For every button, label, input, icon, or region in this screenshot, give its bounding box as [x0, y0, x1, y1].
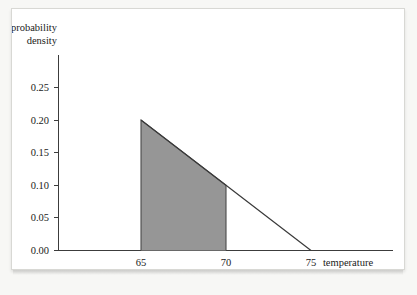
shaded-probability-region	[141, 120, 226, 250]
x-axis-title: temperature	[323, 257, 373, 268]
y-tick-label-0.00: 0.00	[31, 245, 49, 256]
page-shadow	[13, 270, 403, 275]
x-tick-label-75: 75	[306, 257, 317, 268]
density-chart: 0.00 0.05 0.10 0.15 0.20 0.25 65 70 75 t…	[12, 9, 404, 269]
y-tick-label-0.20: 0.20	[31, 115, 49, 126]
x-tick-label-65: 65	[136, 257, 147, 268]
y-tick-label-0.25: 0.25	[31, 82, 49, 93]
y-tick-label-0.15: 0.15	[31, 147, 49, 158]
figure-page: 0.00 0.05 0.10 0.15 0.20 0.25 65 70 75 t…	[0, 0, 417, 295]
y-tick-label-0.10: 0.10	[31, 180, 49, 191]
y-tick-label-0.05: 0.05	[31, 212, 49, 223]
x-tick-label-70: 70	[221, 257, 232, 268]
y-axis-title-line2: density	[27, 35, 58, 46]
chart-card: 0.00 0.05 0.10 0.15 0.20 0.25 65 70 75 t…	[11, 8, 405, 270]
y-axis-title-line1: probability	[12, 22, 58, 33]
